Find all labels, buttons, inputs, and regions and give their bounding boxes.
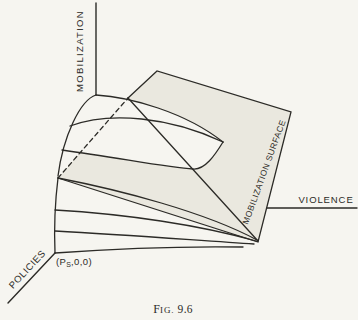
diagram-line-art (0, 0, 358, 320)
mobilization-axis-label: MOBILIZATION (74, 10, 85, 92)
origin-point-label: (PS,0,0) (56, 256, 92, 268)
caption-prefix: F (153, 302, 160, 316)
caption-number: 9.6 (178, 303, 193, 315)
origin-label-open: (P (56, 256, 66, 267)
origin-label-close: ,0,0) (71, 256, 92, 267)
figure-9-6: MOBILIZATION VIOLENCE POLICIES MOBILIZAT… (0, 0, 358, 320)
lower-sheet-left-edge (55, 178, 58, 253)
caption-smallcaps: IG. (160, 305, 174, 315)
figure-caption: FIG. 9.6 (153, 302, 193, 317)
violence-axis-label: VIOLENCE (298, 194, 353, 205)
lower-sheet-bottom-curve (55, 247, 243, 253)
